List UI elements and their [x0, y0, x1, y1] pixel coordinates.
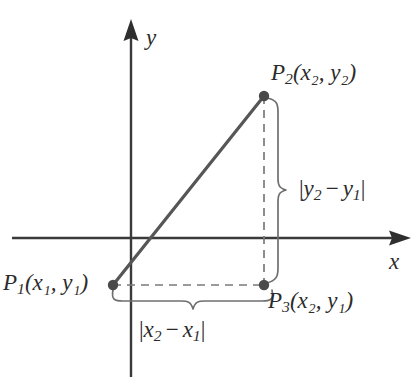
x-axis-label: x — [389, 250, 399, 273]
vertical-brace — [267, 98, 286, 283]
distance-formula-figure: y x P2(x₂, y₂) P1(x₁, y₁) P3(x₂, y₁) |y2… — [0, 0, 416, 379]
vertical-brace-label-b-sub: 1 — [353, 186, 361, 203]
point-dot-p1 — [108, 280, 118, 290]
point-label-p2-coords: (x₂, y₂) — [293, 60, 356, 85]
vertical-brace-label-b: y — [343, 176, 353, 201]
point-label-p1-subscript: 1 — [17, 280, 25, 297]
vertical-brace-label-op: − — [322, 176, 343, 201]
horizontal-brace-label-a-sub: 2 — [154, 327, 162, 344]
point-label-p1-coords: (x₁, y₁) — [25, 270, 88, 295]
horizontal-brace-label-b: x — [183, 317, 193, 342]
horizontal-brace-label-op: − — [162, 317, 183, 342]
horizontal-brace-label-close: | — [201, 317, 206, 342]
horizontal-brace-label-b-sub: 1 — [193, 327, 201, 344]
x-axis-arrowhead — [389, 231, 411, 246]
horizontal-brace-label-a: x — [144, 317, 154, 342]
point-label-p1-base: P — [3, 270, 17, 295]
vertical-brace-label-a-sub: 2 — [314, 186, 322, 203]
y-axis-arrowhead — [124, 19, 139, 41]
point-label-p3-subscript: 3 — [282, 298, 290, 315]
point-label-p3: P3(x₂, y₁) — [268, 289, 353, 315]
vertical-brace-label-a: y — [304, 176, 314, 201]
point-label-p1: P1(x₁, y₁) — [3, 271, 88, 297]
vertical-brace-label: |y2−y1| — [299, 177, 365, 203]
vertical-brace-label-close: | — [361, 176, 366, 201]
hypotenuse-segment — [113, 96, 264, 285]
point-dot-p2 — [259, 91, 269, 101]
point-label-p2: P2(x₂, y₂) — [271, 61, 356, 87]
horizontal-brace-label: |x2−x1| — [139, 318, 205, 344]
point-label-p2-base: P — [271, 60, 285, 85]
point-label-p2-subscript: 2 — [285, 70, 293, 87]
y-axis-label: y — [146, 26, 156, 49]
point-label-p3-base: P — [268, 288, 282, 313]
point-label-p3-coords: (x₂, y₁) — [290, 288, 353, 313]
horizontal-brace — [112, 290, 272, 309]
